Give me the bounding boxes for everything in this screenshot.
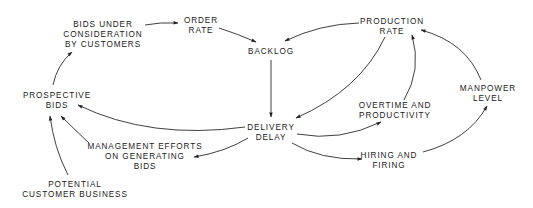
node-label-line: BIDS	[23, 101, 91, 111]
edge-hiring-to-manpower-level	[423, 106, 487, 152]
edge-delivery-delay-to-hiring	[292, 143, 362, 159]
node-label-line: HIRING AND	[361, 151, 418, 161]
node-manpower-level: MANPOWER LEVEL	[460, 84, 516, 104]
edge-production-rate-to-backlog	[285, 23, 359, 41]
causal-loop-diagram: BIDS UNDER CONSIDERATION BY CUSTOMERS OR…	[0, 0, 533, 208]
node-label-line: PROSPECTIVE	[23, 91, 91, 101]
node-label-line: FIRING	[361, 161, 418, 171]
node-label-line: MANAGEMENT EFFORTS	[87, 142, 202, 152]
node-label-line: POTENTIAL	[22, 180, 128, 190]
edge-potential-business-to-prospective-bids	[50, 116, 68, 175]
node-label-line: BY CUSTOMERS	[63, 40, 142, 50]
node-production-rate: PRODUCTION RATE	[360, 17, 424, 37]
node-label-line: BIDS	[87, 162, 202, 172]
edge-bids-to-order-rate	[145, 23, 178, 25]
node-label-line: ORDER	[184, 16, 218, 26]
node-bids-under-consideration: BIDS UNDER CONSIDERATION BY CUSTOMERS	[63, 20, 142, 50]
node-label-line: RATE	[360, 27, 424, 37]
edge-overtime-to-production-rate	[404, 35, 416, 100]
node-label-line: CUSTOMER BUSINESS	[22, 190, 128, 200]
edge-delivery-delay-to-prospective-bids	[78, 105, 245, 131]
node-hiring-and-firing: HIRING AND FIRING	[361, 151, 418, 171]
node-prospective-bids: PROSPECTIVE BIDS	[23, 91, 91, 111]
edge-manpower-level-to-production-rate	[421, 30, 481, 80]
node-label-line: DELAY	[247, 133, 295, 143]
node-label-line: BACKLOG	[248, 47, 294, 57]
edge-management-efforts-to-prospective-bids	[61, 116, 89, 143]
node-label-line: ON GENERATING	[87, 152, 202, 162]
node-order-rate: ORDER RATE	[184, 16, 218, 36]
node-backlog: BACKLOG	[248, 47, 294, 57]
node-label-line: PRODUCTIVITY	[359, 111, 432, 121]
node-management-efforts: MANAGEMENT EFFORTS ON GENERATING BIDS	[87, 142, 202, 172]
edge-delivery-delay-to-overtime	[297, 122, 381, 136]
node-label-line: MANPOWER	[460, 84, 516, 94]
node-label-line: LEVEL	[460, 94, 516, 104]
node-label-line: DELIVERY	[247, 123, 295, 133]
node-label-line: RATE	[184, 26, 218, 36]
edge-order-rate-to-backlog	[219, 28, 256, 42]
node-label-line: PRODUCTION	[360, 17, 424, 27]
node-potential-customer-business: POTENTIAL CUSTOMER BUSINESS	[22, 180, 128, 200]
node-label-line: BIDS UNDER	[63, 20, 142, 30]
edge-prospective-bids-to-bids-under-consideration	[53, 52, 72, 85]
node-label-line: OVERTIME AND	[359, 101, 432, 111]
node-overtime-and-productivity: OVERTIME AND PRODUCTIVITY	[359, 101, 432, 121]
node-delivery-delay: DELIVERY DELAY	[247, 123, 295, 143]
node-label-line: CONSIDERATION	[63, 30, 142, 40]
